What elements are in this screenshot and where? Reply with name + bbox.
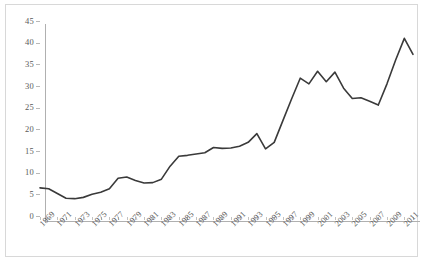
y-axis-line xyxy=(45,24,46,223)
y-axis-tick-label: 40 xyxy=(25,38,34,47)
y-axis-tick-label: 5 xyxy=(30,190,34,199)
y-axis-tick-mark xyxy=(36,43,40,44)
y-axis-tick-label: 0 xyxy=(30,212,34,221)
chart-figure: 051015202530354045 196919711973197519771… xyxy=(0,0,423,263)
y-axis-tick-mark xyxy=(36,108,40,109)
y-axis-tick-mark xyxy=(36,64,40,65)
y-axis-tick-label: 10 xyxy=(25,168,34,177)
y-axis-tick-label: 35 xyxy=(25,60,34,69)
y-axis-tick-label: 15 xyxy=(25,147,34,156)
y-axis-tick-mark xyxy=(36,129,40,130)
y-axis-tick-label: 30 xyxy=(25,82,34,91)
y-axis-tick-labels: 051015202530354045 xyxy=(8,0,34,253)
y-axis-tick-mark xyxy=(36,86,40,87)
y-axis-tick-mark xyxy=(36,194,40,195)
y-axis-tick-mark xyxy=(36,21,40,22)
y-axis-tick-mark xyxy=(36,216,40,217)
y-axis-tick-label: 20 xyxy=(25,125,34,134)
y-axis-tick-mark xyxy=(36,151,40,152)
y-axis-tick-label: 25 xyxy=(25,103,34,112)
y-axis-tick-label: 45 xyxy=(25,17,34,26)
y-axis-tick-mark xyxy=(36,173,40,174)
